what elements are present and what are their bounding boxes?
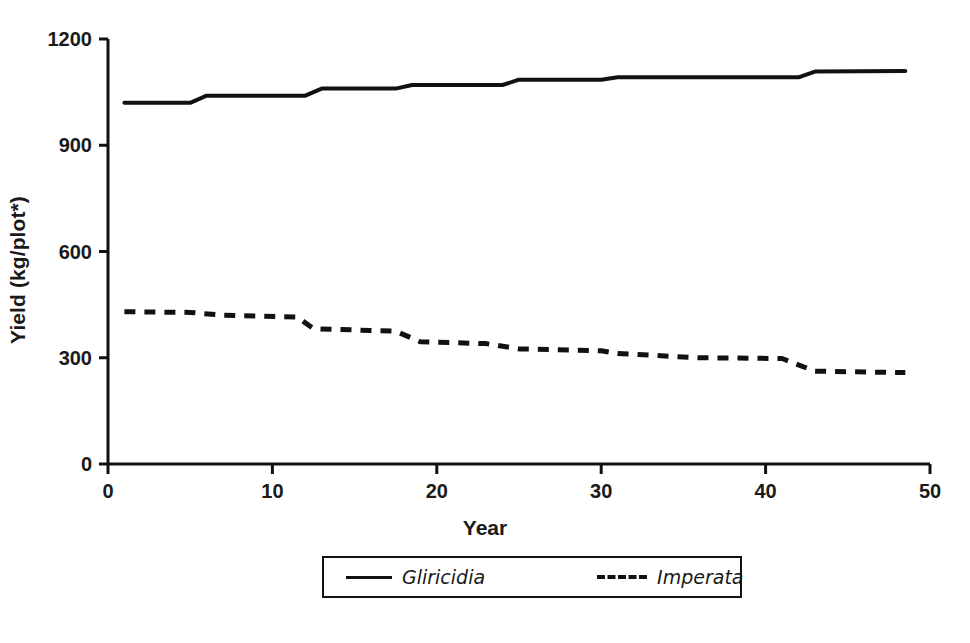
x-tick-label: 30 [571, 480, 631, 503]
chart-figure: Yield (kg/plot*) Year 03006009001200 010… [0, 0, 970, 643]
x-tick-label: 40 [736, 480, 796, 503]
x-tick-label: 50 [900, 480, 960, 503]
series-line-imperata [124, 312, 905, 373]
y-tick-label: 1200 [22, 28, 92, 51]
dashed-line-swatch-icon [597, 575, 647, 579]
x-tick-label: 0 [78, 480, 138, 503]
legend: Gliricidia Imperata [322, 556, 742, 598]
y-axis-title: Yield (kg/plot*) [6, 120, 30, 420]
axis-tick-marks [99, 39, 930, 474]
series-line-gliricidia [124, 71, 905, 103]
y-tick-label: 600 [22, 240, 92, 263]
legend-label-imperata: Imperata [657, 566, 743, 588]
data-series-layer [124, 71, 905, 373]
plot-area [0, 0, 970, 643]
x-axis-title: Year [0, 516, 970, 540]
y-tick-label: 300 [22, 346, 92, 369]
solid-line-swatch-icon [346, 576, 392, 579]
x-tick-label: 10 [242, 480, 302, 503]
legend-label-gliricidia: Gliricidia [402, 566, 485, 588]
legend-item-imperata: Imperata [597, 566, 743, 588]
y-tick-label: 900 [22, 134, 92, 157]
axis-lines [108, 39, 930, 464]
x-tick-label: 20 [407, 480, 467, 503]
legend-item-gliricidia: Gliricidia [346, 566, 485, 588]
y-tick-label: 0 [22, 453, 92, 476]
